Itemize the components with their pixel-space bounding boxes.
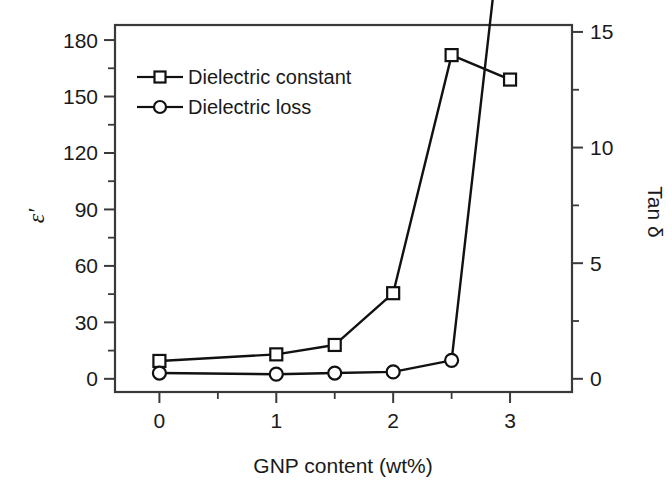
data-point-circle <box>328 367 341 380</box>
x-tick-label: 2 <box>387 409 399 432</box>
legend-label-dielectric-constant: Dielectric constant <box>188 66 352 88</box>
data-point-square <box>270 348 282 360</box>
x-tick-label: 0 <box>154 409 166 432</box>
series-dielectric-loss <box>153 0 517 381</box>
left-tick-label: 120 <box>63 141 98 164</box>
chart-figure: 0306090120150180 0510152025 0123 GNP con… <box>0 0 672 487</box>
legend-item-dielectric-constant: Dielectric constant <box>137 66 352 88</box>
right-tick-label: 0 <box>590 367 602 390</box>
left-tick-label: 30 <box>75 311 98 334</box>
right-tick-label: 5 <box>590 252 602 275</box>
legend-label-dielectric-loss: Dielectric loss <box>188 96 311 118</box>
legend-marker-square <box>155 72 166 83</box>
data-point-circle <box>387 365 400 378</box>
data-point-square <box>446 49 458 61</box>
data-point-circle <box>445 354 458 367</box>
x-tick-label: 1 <box>270 409 282 432</box>
data-point-square <box>504 74 516 86</box>
left-tick-label: 150 <box>63 85 98 108</box>
left-tick-label: 90 <box>75 198 98 221</box>
left-tick-label: 60 <box>75 254 98 277</box>
x-axis-tick-labels: 0123 <box>154 409 516 432</box>
left-tick-label: 0 <box>86 367 98 390</box>
chart-legend: Dielectric constant Dielectric loss <box>137 66 352 118</box>
legend-item-dielectric-loss: Dielectric loss <box>137 96 311 118</box>
x-axis-title: GNP content (wt%) <box>253 454 432 477</box>
data-point-square <box>387 287 399 299</box>
data-point-circle <box>153 367 166 380</box>
left-tick-label: 180 <box>63 29 98 52</box>
data-series-layer <box>153 0 517 381</box>
y-axis-title-right: Tan δ <box>644 186 667 237</box>
data-point-square <box>153 355 165 367</box>
y-axis-title-left: ε′ <box>23 208 49 223</box>
data-point-circle <box>270 368 283 381</box>
right-tick-label: 10 <box>590 136 613 159</box>
legend-marker-circle <box>154 101 166 113</box>
x-tick-label: 3 <box>504 409 516 432</box>
data-point-square <box>329 339 341 351</box>
right-tick-label: 15 <box>590 20 613 43</box>
left-axis-ticks <box>104 40 115 379</box>
right-axis-ticks <box>572 0 583 379</box>
x-axis-ticks <box>159 392 510 403</box>
right-axis-tick-labels: 0510152025 <box>590 0 613 390</box>
left-axis-tick-labels: 0306090120150180 <box>63 29 98 391</box>
chart-svg: 0306090120150180 0510152025 0123 GNP con… <box>0 0 672 487</box>
